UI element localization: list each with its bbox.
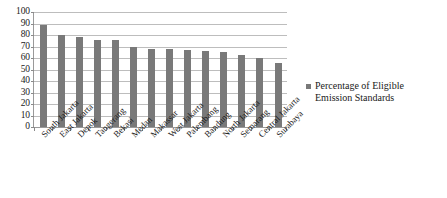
y-tick-label: 90 — [21, 19, 30, 29]
x-label-cell: Depok — [69, 133, 87, 197]
y-tick-label: 80 — [21, 30, 30, 40]
x-label-cell: Bekasi — [105, 133, 123, 197]
bar[interactable] — [130, 47, 137, 128]
bar-chart: 1009080706050403020100 South JakartaEast… — [0, 0, 447, 198]
legend-label: Percentage of Eligible Emission Standard… — [315, 80, 439, 104]
y-tick-mark — [31, 70, 34, 71]
legend-swatch-icon — [306, 84, 311, 89]
bar[interactable] — [40, 25, 47, 127]
y-tick-label: 0 — [25, 122, 30, 132]
x-label-cell: South Jakarta — [33, 133, 51, 197]
x-label-cell: East Jakarta — [51, 133, 69, 197]
y-tick-label: 30 — [21, 88, 30, 98]
y-tick-label: 70 — [21, 42, 30, 52]
x-axis-labels: South JakartaEast JakartaDepokTangerangB… — [33, 133, 286, 197]
x-label-cell: West Jakarta — [160, 133, 178, 197]
bar-slot — [142, 12, 160, 127]
x-label-cell: Palembang — [178, 133, 196, 197]
x-label-cell: North Jakarta — [214, 133, 232, 197]
x-label-cell: Central Jakarta — [250, 133, 268, 197]
y-tick-mark — [31, 12, 34, 13]
x-label-cell: Tangerang — [87, 133, 105, 197]
y-tick-label: 100 — [16, 7, 30, 17]
legend: Percentage of Eligible Emission Standard… — [306, 80, 444, 104]
y-tick-mark — [31, 81, 34, 82]
y-axis: 1009080706050403020100 — [4, 12, 30, 127]
legend-label-line1: Percentage of Eligible — [315, 80, 404, 91]
plot-wrapper: 1009080706050403020100 South JakartaEast… — [0, 0, 300, 198]
x-label-cell: Semarang — [232, 133, 250, 197]
y-tick-mark — [31, 24, 34, 25]
y-tick-mark — [31, 127, 34, 128]
bar[interactable] — [94, 40, 101, 127]
bar[interactable] — [148, 49, 155, 127]
y-tick-label: 60 — [21, 53, 30, 63]
bar-slot — [124, 12, 142, 127]
bar-slot — [34, 12, 52, 127]
x-label-cell: Medan — [123, 133, 141, 197]
y-tick-label: 50 — [21, 65, 30, 75]
x-label-cell: Bandung — [196, 133, 214, 197]
x-label-cell: Makassar — [141, 133, 159, 197]
legend-label-line2: Emission Standards — [315, 92, 394, 103]
y-tick-mark — [31, 93, 34, 94]
x-label-cell: Surabaya — [268, 133, 286, 197]
y-tick-mark — [31, 47, 34, 48]
y-tick-label: 20 — [21, 99, 30, 109]
y-tick-mark — [31, 116, 34, 117]
y-tick-mark — [31, 58, 34, 59]
y-tick-label: 40 — [21, 76, 30, 86]
y-tick-label: 10 — [21, 111, 30, 121]
y-tick-mark — [31, 35, 34, 36]
y-tick-mark — [31, 104, 34, 105]
